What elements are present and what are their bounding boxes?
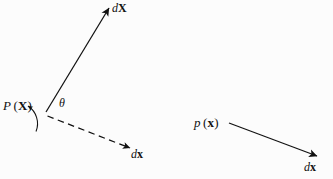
vector-dX-symbol: X <box>118 1 127 15</box>
angle-theta-label: θ <box>59 97 65 109</box>
vector-dx-left-line <box>48 116 131 148</box>
point-current-label: p(x) <box>194 116 219 129</box>
deformation-diagram: P(X) dX dx p(x) dx θ <box>0 0 333 179</box>
vector-dX-line <box>46 8 109 112</box>
point-current-symbol: p <box>194 115 201 130</box>
point-reference-label: P(X) <box>3 99 32 112</box>
point-reference-symbol: P <box>3 98 11 113</box>
vector-dx-right-label: dx <box>304 161 316 173</box>
vector-dx-right-symbol: x <box>310 160 316 174</box>
vector-dx-left-label: dx <box>131 148 143 160</box>
vector-dx-right-line <box>229 123 317 156</box>
point-current-paren-close: ) <box>214 115 218 130</box>
vector-dX-label: dX <box>112 2 127 14</box>
diagram-canvas <box>0 0 333 179</box>
vector-dx-left-symbol: x <box>137 147 143 161</box>
point-reference-paren-close: ) <box>27 98 31 113</box>
